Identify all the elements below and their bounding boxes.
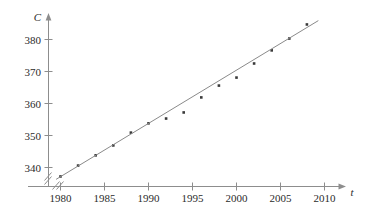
plot-canvas: 380 370 360 350 340 1980 1985 1990 1995 … [0, 0, 370, 221]
data-point [165, 117, 168, 120]
x-tick-label-2005: 2005 [270, 192, 293, 204]
scatter-plot-figure: 380 370 360 350 340 1980 1985 1990 1995 … [0, 0, 370, 221]
x-tick-label-1980: 1980 [50, 192, 73, 204]
data-point [235, 76, 238, 79]
y-tick-label-360: 360 [25, 98, 42, 110]
x-tick-label-1990: 1990 [138, 192, 161, 204]
data-point [253, 62, 256, 65]
x-tick-label-2000: 2000 [226, 192, 249, 204]
y-tick-label-340: 340 [25, 162, 42, 174]
x-tick-label-1985: 1985 [94, 192, 117, 204]
x-tick-label-2010: 2010 [314, 192, 337, 204]
y-tick-label-370: 370 [25, 66, 42, 78]
x-axis-arrow-icon [339, 184, 347, 190]
data-point [306, 23, 309, 26]
y-tick-label-380: 380 [25, 34, 42, 46]
data-series-layer [56, 21, 318, 180]
y-axis-label: C [34, 11, 42, 23]
data-point [182, 111, 185, 114]
x-tick-label-1995: 1995 [182, 192, 205, 204]
x-axis-break-icon [53, 182, 64, 190]
data-point [200, 96, 203, 99]
regression-line [56, 21, 318, 180]
y-tick-label-350: 350 [25, 130, 42, 142]
x-axis-label: t [350, 186, 354, 198]
y-axis-arrow-icon [46, 13, 52, 21]
data-point [218, 84, 221, 87]
